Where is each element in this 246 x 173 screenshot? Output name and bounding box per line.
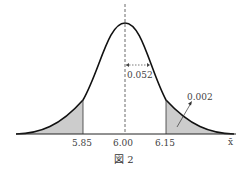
normal-distribution-diagram: 0.052 0.002 5.85 6.00 6.15 x̄ 図 2 bbox=[0, 0, 246, 173]
tick-label-6-00: 6.00 bbox=[113, 138, 133, 148]
tick-label-6-15: 6.15 bbox=[155, 138, 175, 148]
std-arrow-head-left bbox=[126, 63, 129, 67]
std-label: 0.052 bbox=[127, 70, 153, 80]
std-arrow-head-right bbox=[147, 63, 150, 67]
tail-probability-label: 0.002 bbox=[187, 92, 213, 102]
figure-caption: 図 2 bbox=[114, 154, 134, 165]
x-axis-label: x̄ bbox=[228, 137, 233, 147]
tick-label-5-85: 5.85 bbox=[72, 138, 92, 148]
right-tail-shade bbox=[166, 100, 234, 134]
left-tail-shade bbox=[16, 100, 83, 134]
